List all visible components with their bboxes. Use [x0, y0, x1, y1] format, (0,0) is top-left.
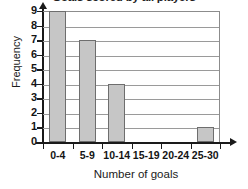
x-axis-category-label: 20-24	[161, 149, 191, 161]
y-axis-tick-label: 8	[23, 20, 37, 31]
gridline	[43, 85, 219, 86]
y-axis-tick-label: 3	[23, 92, 37, 103]
x-axis-category-label: 10-14	[102, 149, 132, 161]
plot-area	[43, 11, 220, 142]
y-axis-tick-label: 1	[23, 121, 37, 132]
y-axis-tick-labels: 0123456789	[19, 0, 37, 189]
gridline	[43, 128, 219, 129]
y-axis-tick-label: 5	[23, 63, 37, 74]
y-axis-tick-mark	[37, 127, 43, 128]
x-axis-category-label: 0-4	[43, 149, 73, 161]
gridline	[43, 99, 219, 100]
x-axis-category-label: 5-9	[73, 149, 103, 161]
y-axis-tick-mark	[37, 98, 43, 99]
histogram-chart: Goals scored by all players Frequency 01…	[0, 0, 248, 189]
y-axis-tick-mark	[37, 11, 43, 12]
chart-title: Goals scored by all players	[0, 0, 248, 5]
y-axis-tick-mark	[37, 40, 43, 41]
y-axis-tick-mark	[37, 69, 43, 70]
y-axis-arrow-icon	[39, 2, 47, 9]
y-axis-tick-mark	[37, 26, 43, 27]
gridline	[43, 41, 219, 42]
bar	[79, 40, 96, 142]
bar	[49, 11, 66, 142]
y-axis-tick-label: 7	[23, 34, 37, 45]
gridline	[43, 27, 219, 28]
y-axis-tick-label: 4	[23, 78, 37, 89]
y-axis-tick-label: 0	[23, 136, 37, 147]
x-axis-label: Number of goals	[36, 168, 236, 180]
x-axis-tick-mark	[220, 143, 221, 149]
bar	[197, 127, 214, 142]
y-axis-tick-mark	[37, 142, 43, 143]
gridline	[43, 70, 219, 71]
y-axis-tick-mark	[37, 84, 43, 85]
x-axis-line	[36, 142, 232, 144]
y-axis-tick-label: 6	[23, 49, 37, 60]
y-axis-tick-mark	[37, 55, 43, 56]
y-axis-tick-label: 2	[23, 107, 37, 118]
x-axis-category-label: 25-30	[191, 149, 221, 161]
gridline	[43, 114, 219, 115]
x-axis-category-label: 15-19	[132, 149, 162, 161]
y-axis-tick-label: 9	[23, 5, 37, 16]
gridline	[43, 56, 219, 57]
bar	[108, 84, 125, 142]
y-axis-tick-mark	[37, 113, 43, 114]
x-axis-arrow-icon	[230, 138, 237, 146]
